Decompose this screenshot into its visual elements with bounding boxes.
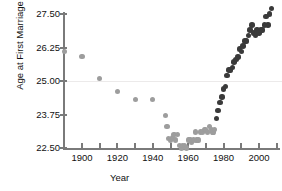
data-point [224,73,230,79]
data-point [196,137,201,142]
y-tick-label: 22.50 [36,143,60,153]
x-tick-minor [63,143,65,149]
x-tick-label: 1920 [100,153,134,163]
data-point [269,6,275,12]
x-axis-line [64,148,280,150]
data-point [164,124,169,129]
data-point [265,22,271,28]
data-point [215,108,221,114]
data-point [244,38,250,44]
x-axis-title: Year [110,172,230,183]
data-point [115,89,120,94]
data-point [217,100,223,106]
data-point [219,94,225,100]
data-point [212,127,217,132]
x-tick-label: 1900 [65,153,99,163]
y-tick-label: 26.25 [36,43,60,53]
scatter-chart: Age at First Marriage Year 22.5023.7525.… [0,0,282,191]
x-tick-minor [134,143,136,149]
x-tick-minor [240,143,242,149]
x-tick-label: 1980 [207,153,241,163]
data-point [260,27,266,33]
x-tick [152,143,154,149]
y-tick-label: 25.00 [36,76,60,86]
x-tick-minor [205,143,207,149]
data-point [175,132,180,137]
y-axis-title: Age at First Marriage [14,0,25,106]
data-point [133,97,138,102]
x-tick [223,143,225,149]
data-point [150,97,155,102]
reference-line [64,81,282,82]
x-tick-label: 2000 [242,153,276,163]
y-tick [60,13,67,15]
y-tick [60,114,67,116]
data-point [214,116,220,122]
data-point [249,22,255,28]
data-point [223,84,229,90]
data-point [230,65,236,71]
data-point [267,11,273,17]
data-point [173,137,178,142]
x-tick-label: 1940 [136,153,170,163]
x-tick [258,143,260,149]
data-point [79,54,84,59]
x-tick-minor [276,143,278,149]
data-point [235,54,241,60]
y-tick-label: 27.50 [36,9,60,19]
y-tick-label: 23.75 [36,110,60,120]
x-tick-label: 1960 [171,153,205,163]
x-tick-minor [99,143,101,149]
data-point [184,145,189,150]
data-point [239,49,245,55]
x-tick [81,143,83,149]
x-tick-minor [170,143,172,149]
data-point [240,43,246,49]
data-point [62,49,67,54]
y-tick [60,80,67,82]
data-point [163,113,168,118]
x-tick [116,143,118,149]
